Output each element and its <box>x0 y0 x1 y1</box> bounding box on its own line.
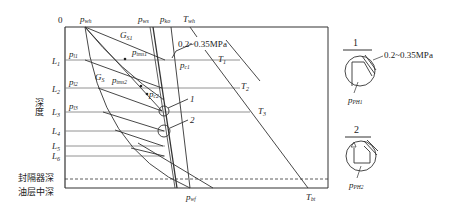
detail-panel-2: 2 pPH2 <box>345 124 378 190</box>
svg-text:L1: L1 <box>51 56 60 67</box>
packer-depth-label: 封隔器深 <box>18 172 54 183</box>
svg-text:1: 1 <box>353 37 358 48</box>
svg-text:ptms1: ptms1 <box>131 47 147 57</box>
detail-panel-1: 1 0.2~0.35MPa pPH1 <box>343 37 433 105</box>
t-wh-label: Twh <box>183 14 195 24</box>
svg-text:pl2: pl2 <box>68 77 78 87</box>
callout-1-label: 1 <box>190 94 195 104</box>
curves <box>85 27 308 188</box>
svg-text:GS1: GS1 <box>120 30 133 41</box>
pressure-note: 0.2~0.35MPa <box>178 39 227 49</box>
svg-text:T2: T2 <box>241 81 249 92</box>
tms-points <box>124 58 149 96</box>
svg-text:L6: L6 <box>51 151 60 162</box>
plot-frame <box>65 27 328 188</box>
svg-text:0.2~0.35MPa: 0.2~0.35MPa <box>384 50 433 60</box>
top-labels: 0 pwh pws pko Twh <box>58 14 195 25</box>
svg-text:pl3: pl3 <box>68 101 78 111</box>
p-ko-label: pko <box>159 14 170 24</box>
svg-text:T1: T1 <box>218 54 226 65</box>
svg-text:L3: L3 <box>51 107 60 118</box>
t-bt-label: Tbt <box>306 192 316 202</box>
svg-text:pc2: pc2 <box>148 89 159 99</box>
origin-label: 0 <box>58 15 63 25</box>
svg-text:pl1: pl1 <box>68 49 78 59</box>
wellbore-pressure-temperature-diagram: 0 pwh pws pko Twh L1 L2 L3 L4 L5 L6 pl1 … <box>0 0 452 214</box>
svg-text:pPH1: pPH1 <box>347 95 363 105</box>
p-wf-label: pwf <box>185 192 197 202</box>
svg-text:pPH2: pPH2 <box>348 180 364 190</box>
svg-text:L4: L4 <box>51 126 60 137</box>
svg-text:2: 2 <box>354 124 359 135</box>
callout-2-label: 2 <box>190 115 195 125</box>
svg-text:pc1: pc1 <box>179 60 190 70</box>
p-ws-label: pws <box>137 14 150 24</box>
svg-text:T3: T3 <box>258 106 266 117</box>
depth-axis-label: 深度 <box>34 98 44 117</box>
svg-text:ptms2: ptms2 <box>111 75 127 85</box>
svg-text:L2: L2 <box>51 84 60 95</box>
reservoir-mid-depth-label: 油层中深 <box>18 186 54 197</box>
svg-text:GS: GS <box>95 72 105 83</box>
p-wh-label: pwh <box>79 14 92 24</box>
